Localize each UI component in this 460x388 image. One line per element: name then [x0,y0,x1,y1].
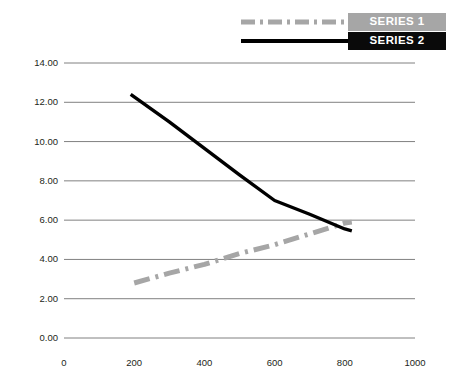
y-tick-label: 10.00 [12,137,58,147]
x-tick-label: 200 [111,358,157,368]
line-chart: SERIES 1 SERIES 2 0.002.004.006.008.0010… [0,0,460,388]
y-tick-label: 6.00 [12,215,58,225]
x-tick-label: 600 [252,358,298,368]
x-tick-label: 800 [322,358,368,368]
y-tick-label: 8.00 [12,176,58,186]
y-tick-label: 0.00 [12,333,58,343]
series-line-1 [134,222,352,283]
x-tick-label: 0 [41,358,87,368]
y-tick-label: 14.00 [12,58,58,68]
y-tick-label: 4.00 [12,254,58,264]
y-tick-label: 12.00 [12,97,58,107]
series-lines [131,94,352,283]
y-tick-label: 2.00 [12,294,58,304]
x-tick-label: 400 [181,358,227,368]
series-line-2 [131,94,352,231]
x-tick-label: 1000 [392,358,438,368]
gridlines [64,63,415,338]
plot-area [0,0,460,388]
